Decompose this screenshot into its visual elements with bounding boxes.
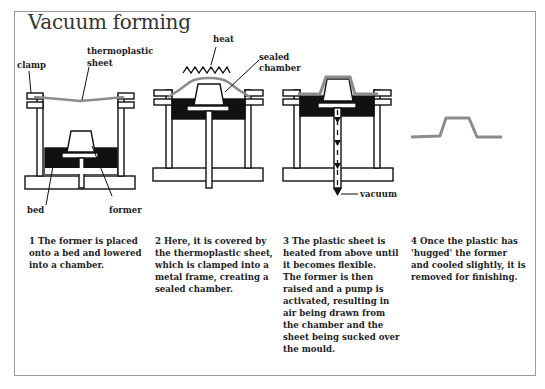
- label-bed: bed: [27, 205, 44, 215]
- formed-plastic-shape: [411, 118, 502, 137]
- clamp-bottom-right: [245, 99, 263, 105]
- vacuum-forming-diagram: clamp thermoplastic sheet bed former hea…: [0, 0, 545, 389]
- bed-platform: [187, 106, 229, 111]
- clamp-top-left: [283, 90, 300, 96]
- label-clamp: clamp: [17, 60, 46, 70]
- thermoplastic-sheet-1: [34, 97, 124, 101]
- step-2-caption: 2 Here, it is covered by the thermoplast…: [155, 235, 273, 295]
- clamp-bottom-right: [374, 99, 391, 105]
- clamp-bottom-left: [154, 99, 172, 105]
- stage-2-illustration: [153, 84, 263, 188]
- step-3-caption: 3 The plastic sheet is heated from above…: [283, 235, 399, 355]
- step-1-caption: 1 The former is placed onto a bed and lo…: [29, 235, 141, 271]
- former: [323, 79, 353, 101]
- step-4-caption: 4 Once the plastic has 'hugged' the form…: [411, 235, 526, 283]
- bed-platform: [62, 153, 98, 158]
- lift-rod: [206, 111, 212, 188]
- heat-zigzag-icon: [183, 67, 230, 73]
- label-heat: heat: [213, 34, 234, 44]
- clamp-bottom-left: [27, 102, 43, 108]
- label-chamber: chamber: [259, 63, 301, 73]
- stage-1-illustration: [25, 93, 135, 189]
- bed-platform: [318, 103, 356, 108]
- label-vacuum: vacuum: [359, 189, 397, 199]
- clamp-bottom-left: [283, 99, 300, 105]
- label-sheet: sheet: [87, 58, 113, 68]
- former: [194, 84, 224, 105]
- label-former: former: [109, 205, 142, 215]
- label-thermoplastic: thermoplastic: [87, 46, 153, 56]
- clamp-bottom-right: [118, 102, 134, 108]
- former: [67, 131, 95, 152]
- label-sealed: sealed: [259, 52, 289, 62]
